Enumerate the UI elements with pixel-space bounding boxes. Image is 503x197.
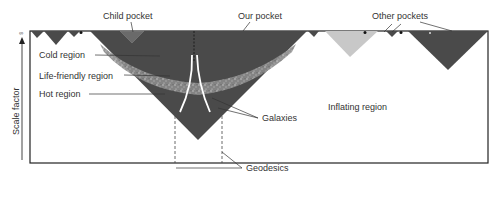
cold-region-label: Cold region <box>39 51 85 60</box>
svg-text:∞: ∞ <box>19 30 23 36</box>
geodesics-label: Geodesics <box>246 164 289 173</box>
our-pocket-label: Our pocket <box>238 12 282 21</box>
inflating-region-label: Inflating region <box>328 103 387 112</box>
life-friendly-region-label: Life-friendly region <box>39 72 113 81</box>
child-pocket-label: Child pocket <box>103 12 153 21</box>
hot-region-label: Hot region <box>39 90 81 99</box>
other-pockets-label: Other pockets <box>372 12 428 21</box>
scale-factor-label: Scale factor <box>11 87 21 135</box>
galaxies-label: Galaxies <box>262 114 297 123</box>
